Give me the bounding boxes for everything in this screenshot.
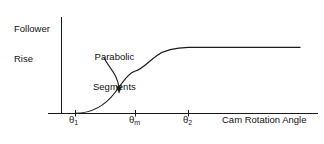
y-axis-label-line1: Follower xyxy=(14,24,50,34)
theta-subscript-1: 1 xyxy=(74,119,78,126)
tick-label-theta-2: θ2 xyxy=(183,115,192,128)
annotation-label-line2: Segments xyxy=(93,82,136,92)
theta-subscript-2: 2 xyxy=(188,119,192,126)
y-axis-label-line2: Rise xyxy=(14,54,50,64)
cam-follower-displacement-diagram: Follower Rise Cam Rotation Angle Parabol… xyxy=(0,0,324,144)
x-axis-label: Cam Rotation Angle xyxy=(222,115,307,125)
y-axis-label: Follower Rise xyxy=(14,4,50,84)
tick-label-theta-1: θ1 xyxy=(69,115,78,128)
tick-label-theta-m: θm xyxy=(129,115,140,128)
annotation-label: Parabolic Segments xyxy=(93,32,136,112)
theta-subscript-m: m xyxy=(134,119,140,126)
annotation-label-line1: Parabolic xyxy=(93,52,136,62)
